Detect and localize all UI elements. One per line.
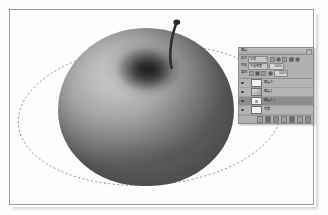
table-row[interactable]: 背景 bbox=[239, 106, 313, 115]
add-mask-icon[interactable] bbox=[273, 116, 280, 123]
editor-window: 图层 × 模式 正常 锁定 bbox=[0, 0, 328, 215]
panel-footer-toolbar bbox=[239, 115, 313, 123]
move-icon[interactable] bbox=[261, 71, 266, 76]
fill-input[interactable]: 100% bbox=[274, 70, 289, 77]
panel-title-bar[interactable]: 图层 × bbox=[239, 48, 313, 55]
link-icon[interactable] bbox=[246, 81, 250, 86]
chevron-down-icon bbox=[265, 58, 267, 59]
layer-name-label: 图层 3 bbox=[264, 81, 273, 84]
brush-icon[interactable] bbox=[255, 71, 260, 76]
blend-mode-select[interactable]: 正常 bbox=[248, 56, 268, 63]
panel-title-label: 图层 bbox=[241, 49, 247, 52]
close-icon[interactable]: × bbox=[306, 49, 312, 55]
layer-style-icon[interactable] bbox=[265, 116, 272, 123]
eye-icon[interactable] bbox=[240, 99, 245, 104]
blend-mode-value: 正常 bbox=[250, 58, 256, 61]
eye-icon[interactable] bbox=[240, 108, 245, 113]
layer-thumbnail[interactable] bbox=[251, 106, 262, 114]
lock-position-icon[interactable] bbox=[282, 57, 287, 62]
apple-artwork[interactable] bbox=[58, 18, 234, 186]
lock-transparency-icon[interactable] bbox=[270, 57, 275, 62]
table-row[interactable]: 图层 3 bbox=[239, 79, 313, 88]
link-icon[interactable] bbox=[246, 108, 250, 113]
lock-all-icon[interactable] bbox=[289, 57, 294, 62]
layer-thumbnail[interactable] bbox=[251, 88, 262, 96]
link-layers-icon[interactable] bbox=[257, 116, 264, 123]
fill-row: 填充 100% bbox=[241, 70, 311, 76]
fill-icon-group bbox=[249, 71, 273, 76]
link-icon[interactable] bbox=[246, 99, 250, 104]
eye-icon[interactable] bbox=[240, 81, 245, 86]
layers-panel[interactable]: 图层 × 模式 正常 锁定 bbox=[238, 47, 314, 124]
panel-controls: 模式 正常 锁定 不透明度 100% bbox=[239, 55, 313, 78]
layer-thumbnail[interactable] bbox=[251, 97, 262, 105]
eye-icon[interactable] bbox=[240, 90, 245, 95]
layer-name-label: 图层 2 bbox=[264, 90, 273, 93]
new-group-icon[interactable] bbox=[281, 116, 288, 123]
layer-list: 图层 3 图层 2 图层 1 T 背景 bbox=[239, 78, 313, 115]
layer-name-label: 背景 bbox=[264, 108, 270, 111]
apple-stem bbox=[154, 18, 188, 72]
opacity-input[interactable]: 100% bbox=[269, 63, 284, 70]
panel-menu-icon[interactable] bbox=[295, 57, 300, 62]
table-row[interactable]: 图层 2 bbox=[239, 88, 313, 97]
lock-icon-group bbox=[270, 57, 300, 62]
lock-image-icon[interactable] bbox=[276, 57, 281, 62]
opacity-field-label: 不透明度 bbox=[248, 63, 268, 70]
opacity-row: 锁定 不透明度 100% bbox=[241, 63, 311, 69]
opacity-label-text: 不透明度 bbox=[250, 65, 262, 68]
table-row[interactable]: 图层 1 T bbox=[239, 97, 313, 106]
delete-layer-icon[interactable] bbox=[305, 116, 312, 123]
transparency-icon[interactable] bbox=[249, 71, 254, 76]
layer-thumbnail[interactable] bbox=[251, 79, 262, 87]
adjustment-layer-icon[interactable] bbox=[289, 116, 296, 123]
lock-icon[interactable] bbox=[268, 71, 273, 76]
link-icon[interactable] bbox=[246, 90, 250, 95]
fill-label: 填充 bbox=[241, 71, 247, 74]
new-layer-icon[interactable] bbox=[297, 116, 304, 123]
layer-type-badge: T bbox=[273, 100, 275, 103]
lock-label: 锁定 bbox=[241, 64, 247, 67]
blend-mode-row: 模式 正常 bbox=[241, 56, 311, 62]
layer-name-label: 图层 1 bbox=[264, 99, 273, 102]
apple-contact-shadow bbox=[74, 144, 224, 170]
blend-mode-label: 模式 bbox=[241, 57, 247, 60]
